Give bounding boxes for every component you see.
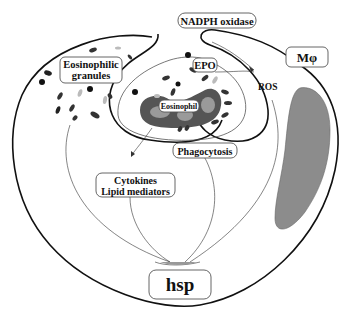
svg-text:EPO: EPO <box>194 60 216 71</box>
svg-text:Eosinophil: Eosinophil <box>161 102 198 111</box>
label-phagocytosis: Phagocytosis <box>173 143 237 158</box>
diagram-canvas: NADPH oxidase Eosinophilic granules EPO … <box>0 0 350 323</box>
svg-text:hsp: hsp <box>166 274 195 295</box>
label-epo: EPO <box>193 58 217 72</box>
svg-text:Cytokines: Cytokines <box>114 175 157 186</box>
svg-text:Mφ: Mφ <box>297 50 317 65</box>
label-cytokines-lipid-mediators: Cytokines Lipid mediators <box>96 173 175 197</box>
svg-text:Phagocytosis: Phagocytosis <box>178 146 233 157</box>
svg-text:NADPH oxidase: NADPH oxidase <box>180 16 254 27</box>
label-hsp: hsp <box>149 270 211 299</box>
label-eosinophilic-granules: Eosinophilic granules <box>60 57 122 83</box>
nucleus-lobe <box>201 97 215 113</box>
svg-text:Eosinophilic: Eosinophilic <box>63 59 119 70</box>
svg-text:Lipid mediators: Lipid mediators <box>101 186 170 197</box>
label-eosinophil: Eosinophil <box>159 100 199 112</box>
svg-text:granules: granules <box>72 70 111 81</box>
label-ros: ROS <box>258 82 278 92</box>
label-macrophage: Mφ <box>286 47 328 67</box>
label-nadph-oxidase: NADPH oxidase <box>178 13 256 28</box>
